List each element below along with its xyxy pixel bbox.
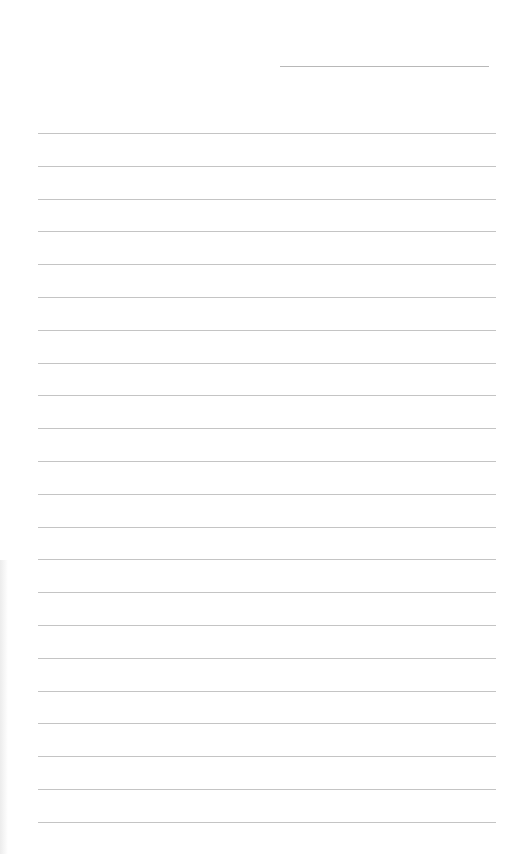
ruled-line <box>38 494 496 495</box>
ruled-line <box>38 133 496 134</box>
ruled-line <box>38 428 496 429</box>
ruled-line <box>38 691 496 692</box>
ruled-line <box>38 527 496 528</box>
ruled-line <box>38 461 496 462</box>
ruled-line <box>38 166 496 167</box>
lined-paper-page <box>0 0 530 854</box>
date-line <box>280 66 489 67</box>
ruled-line <box>38 822 496 823</box>
ruled-line <box>38 231 496 232</box>
ruled-line <box>38 395 496 396</box>
ruled-line <box>38 559 496 560</box>
ruled-line <box>38 789 496 790</box>
ruled-line <box>38 264 496 265</box>
ruled-line <box>38 592 496 593</box>
page-edge-shadow <box>0 560 8 854</box>
ruled-line <box>38 756 496 757</box>
ruled-line <box>38 363 496 364</box>
ruled-line <box>38 199 496 200</box>
ruled-line <box>38 723 496 724</box>
ruled-line <box>38 330 496 331</box>
ruled-line <box>38 297 496 298</box>
ruled-line <box>38 625 496 626</box>
ruled-line <box>38 658 496 659</box>
